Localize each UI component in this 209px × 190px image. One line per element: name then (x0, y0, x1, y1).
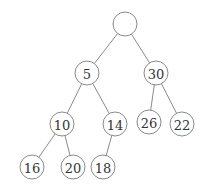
binary-tree-diagram: 53010142622162018 (0, 0, 209, 190)
node-label: 26 (141, 116, 158, 131)
tree-node-root (113, 12, 137, 36)
node-label: 10 (54, 118, 71, 133)
tree-node-5: 5 (75, 61, 99, 85)
edge-n30-n22 (161, 84, 176, 114)
edge-n30-n26 (151, 85, 155, 110)
tree-node-22: 22 (170, 112, 194, 136)
edge-n14-n18 (106, 136, 112, 156)
node-label: 14 (107, 118, 124, 133)
node-label: 18 (95, 161, 112, 176)
tree-node-30: 30 (144, 61, 168, 85)
edge-root-n30 (131, 34, 149, 63)
node-label: 30 (148, 67, 165, 82)
tree-node-26: 26 (137, 110, 161, 134)
tree-node-10: 10 (50, 112, 74, 136)
tree-node-14: 14 (103, 112, 127, 136)
tree-node-16: 16 (20, 155, 44, 179)
edge-root-n5 (94, 33, 117, 63)
edge-n10-n16 (39, 134, 55, 157)
node-label: 5 (83, 67, 91, 82)
node-label: 16 (24, 161, 41, 176)
node-label: 22 (174, 118, 191, 133)
edge-n5-n10 (67, 84, 81, 113)
edge-n5-n14 (93, 84, 109, 114)
node-label: 20 (65, 161, 82, 176)
tree-node-20: 20 (61, 155, 85, 179)
tree-edges (39, 33, 177, 157)
tree-node-18: 18 (91, 155, 115, 179)
edge-n10-n20 (65, 136, 70, 156)
node-circle (113, 12, 137, 36)
